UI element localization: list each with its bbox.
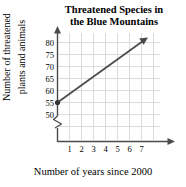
grid-horizontal [57,43,160,127]
y-axis-label-line-1: Number of threatened [0,0,14,121]
x-tick-label: 7 [139,144,143,154]
y-axis-arrow-icon [54,26,61,34]
x-tick-label: 1 [67,144,71,154]
y-tick-labels: 80 75 70 65 60 55 50 [46,38,55,120]
y-axis-label: Number of threatened plants and animals [0,0,33,121]
data-series-line [58,41,144,103]
x-axis-label: Number of years since 2000 [0,166,186,177]
y-tick-label: 65 [46,74,55,84]
x-tick-labels: 1 2 3 4 5 6 7 [67,144,143,154]
chart-figure: Threatened Species in the Blue Mountains [0,0,186,187]
y-tick-label: 50 [46,110,55,120]
y-tick-label: 60 [46,86,55,96]
y-tick-label: 70 [46,62,55,72]
x-tick-label: 6 [127,144,131,154]
y-tick-label: 80 [46,38,55,48]
y-tick-label: 55 [46,98,55,108]
x-tick-label: 3 [91,144,95,154]
grid-vertical [70,33,154,140]
y-axis-label-line-2: plants and animals [14,0,29,121]
x-tick-label: 2 [79,144,83,154]
y-tick-label: 75 [46,50,55,60]
x-axis-arrow-icon [168,138,176,145]
x-tick-label: 4 [103,144,108,154]
x-tick-label: 5 [115,144,119,154]
data-point-marker [55,100,60,105]
